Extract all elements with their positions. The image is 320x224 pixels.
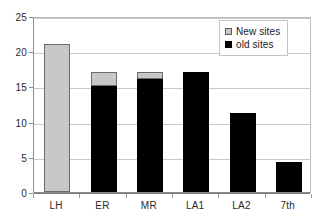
x-tickmark — [172, 194, 173, 198]
x-tick-label: LA1 — [186, 200, 204, 211]
x-tick-label: ER — [95, 200, 109, 211]
bar-group[interactable] — [44, 16, 70, 192]
x-tick-label: LH — [50, 200, 63, 211]
legend-item[interactable]: New sites — [225, 25, 280, 37]
bar-segment-old-sites[interactable] — [91, 86, 117, 192]
y-axis: 0510152025 — [0, 17, 33, 193]
x-axis: LHERMRLA1LA27th — [33, 194, 311, 220]
x-tickmark — [126, 194, 127, 198]
bar-group[interactable] — [137, 16, 163, 192]
x-tickmark — [33, 194, 34, 198]
new-sites-swatch — [225, 28, 232, 35]
x-tick-label: MR — [141, 200, 157, 211]
legend-item[interactable]: old sites — [225, 38, 280, 50]
y-tick-label: 10 — [15, 117, 27, 128]
bar-group[interactable] — [183, 16, 209, 192]
bar-segment-new-sites[interactable] — [91, 72, 117, 87]
x-tickmark — [218, 194, 219, 198]
y-tick-label: 15 — [15, 82, 27, 93]
y-tick-label: 20 — [15, 47, 27, 58]
bar-segment-old-sites[interactable] — [230, 113, 256, 192]
old-sites-swatch — [225, 41, 232, 48]
x-tickmark — [265, 194, 266, 198]
y-tick-label: 0 — [21, 188, 27, 199]
legend-item-label: New sites — [236, 26, 280, 37]
x-tick-label: 7th — [281, 200, 296, 211]
bar-segment-old-sites[interactable] — [183, 72, 209, 192]
bar-chart: 0510152025 LHERMRLA1LA27th New sitesold … — [0, 0, 320, 224]
y-tick-label: 25 — [15, 12, 27, 23]
x-tickmark — [79, 194, 80, 198]
bar-segment-old-sites[interactable] — [137, 79, 163, 192]
bar-segment-new-sites[interactable] — [137, 72, 163, 80]
bar-segment-new-sites[interactable] — [44, 44, 70, 192]
legend-item-label: old sites — [236, 39, 274, 50]
y-tick-label: 5 — [21, 152, 27, 163]
x-tick-label: LA2 — [232, 200, 250, 211]
bar-segment-old-sites[interactable] — [276, 162, 302, 192]
bar-group[interactable] — [91, 16, 117, 192]
x-tickmark — [311, 194, 312, 198]
chart-legend: New sitesold sites — [219, 20, 288, 56]
